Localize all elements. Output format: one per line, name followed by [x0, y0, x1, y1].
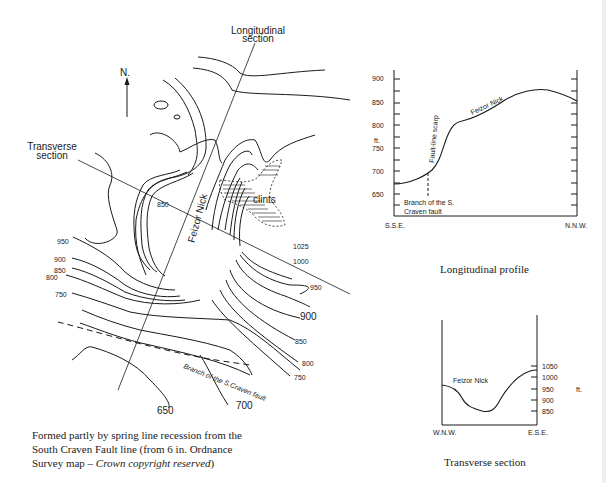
- trans-ytick-900: 900: [542, 397, 554, 404]
- long-ytick-800: 800: [372, 122, 384, 129]
- trans-x-left-label: W.N.W.: [433, 429, 456, 436]
- transverse-section-caption: Transverse section: [444, 455, 526, 469]
- long-x-right-label: N.N.W.: [565, 222, 587, 229]
- contour-label-700: 700: [236, 400, 253, 411]
- feizor-nick-map-label: Feizor Nick: [186, 192, 210, 244]
- map-caption-line-1: Formed partly by spring line recession f…: [32, 428, 312, 442]
- contour-label-900: 900: [300, 311, 317, 322]
- feizor-nick-profile-label: Feizor Nick: [469, 95, 504, 116]
- contour-label-left-850: 850: [54, 267, 66, 274]
- contour-map: N. Longitudinal section Transverse secti…: [0, 0, 606, 483]
- fault-map-label: Branch of the S.Craven fault: [183, 362, 268, 402]
- trans-ytick-1050: 1050: [542, 363, 558, 370]
- caption-end: ): [211, 457, 215, 469]
- transverse-section-chart: [442, 315, 537, 425]
- contour-label-850-top: 850: [157, 201, 169, 208]
- clints-label: clints: [253, 194, 276, 205]
- fault-profile-label-1: Branch of the S.: [404, 199, 454, 206]
- transverse-section-label-2: section: [36, 150, 68, 161]
- trans-ytick-1000: 1000: [542, 374, 558, 381]
- caption-italic: Crown copyright reserved: [96, 457, 211, 469]
- fault-line-scarp-label: Fault-line scarp: [428, 115, 440, 163]
- map-caption: Formed partly by spring line recession f…: [32, 428, 312, 470]
- contour-label-left-750: 750: [55, 291, 67, 298]
- fault-profile-label-2: Craven fault: [404, 208, 442, 215]
- trans-x-right-label: E.S.E.: [528, 429, 548, 436]
- trans-unit-label: ft.: [576, 386, 582, 393]
- contour-label-left-950: 950: [57, 238, 69, 245]
- longitudinal-profile-caption: Longitudinal profile: [440, 262, 529, 276]
- contour-label-1000: 1000: [293, 258, 309, 265]
- long-ytick-700: 700: [372, 168, 384, 175]
- contour-label-left-900: 900: [54, 256, 66, 263]
- long-ytick-900: 900: [372, 75, 384, 82]
- long-ytick-850: 850: [372, 99, 384, 106]
- contour-label-1025: 1025: [293, 243, 309, 250]
- trans-ytick-950: 950: [542, 386, 554, 393]
- contour-label-950: 950: [310, 284, 322, 291]
- contour-label-750: 750: [294, 374, 306, 381]
- caption-plain: Survey map –: [32, 457, 96, 469]
- map-caption-line-3: Survey map – Crown copyright reserved): [32, 456, 312, 470]
- long-ytick-650: 650: [372, 191, 384, 198]
- map-caption-line-2: South Craven Fault line (from 6 in. Ordn…: [32, 442, 312, 456]
- longitudinal-section-line: [118, 43, 255, 390]
- trans-ytick-850: 850: [542, 408, 554, 415]
- longitudinal-section-label-2: section: [242, 33, 274, 44]
- longitudinal-profile-chart: [394, 70, 577, 216]
- contour-label-650: 650: [157, 405, 174, 416]
- long-ytick-750: 750: [372, 145, 384, 152]
- fault-line-dashed: [58, 322, 250, 365]
- feizor-nick-transverse-label: Feizor Nick: [453, 377, 489, 384]
- long-unit-label: ft.: [374, 137, 380, 144]
- long-x-left-label: S.S.E.: [385, 222, 405, 229]
- contour-label-800: 800: [302, 360, 314, 367]
- contour-label-left-800: 800: [46, 274, 58, 281]
- contour-label-850: 850: [295, 338, 307, 345]
- north-label: N.: [120, 67, 130, 78]
- transverse-section-line: [78, 160, 350, 294]
